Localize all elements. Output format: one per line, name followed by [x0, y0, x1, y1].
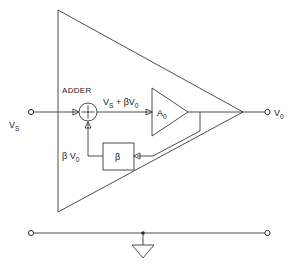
feedback-amplifier-diagram: VS ADDER VS + βV0 A0 β β V0 V0	[0, 0, 292, 269]
adder-label: ADDER	[62, 86, 92, 95]
output-voltage-label: V0	[274, 108, 284, 120]
ground-terminal-left[interactable]	[28, 230, 33, 235]
sum-node-expression-label: VS + βV0	[103, 97, 139, 109]
source-voltage-label: VS	[9, 120, 20, 132]
figure-canvas: VS ADDER VS + βV0 A0 β β V0 V0	[0, 0, 292, 269]
input-terminal[interactable]	[28, 109, 33, 114]
amplifier-gain-label: A0	[157, 108, 167, 120]
feedback-voltage-label: β V0	[62, 151, 80, 163]
ground-symbol-icon	[132, 245, 154, 258]
ground-terminal-right[interactable]	[265, 230, 270, 235]
feedback-diagonal-wire	[153, 131, 200, 156]
beta-block-label: β	[115, 152, 120, 162]
output-terminal[interactable]	[265, 109, 270, 114]
